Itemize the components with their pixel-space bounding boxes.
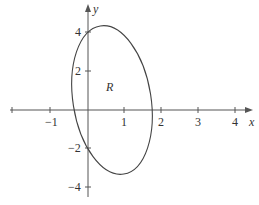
x-tick-label: 4 [232, 115, 238, 129]
x-axis-label: x [248, 115, 255, 129]
y-tick-label: 4 [75, 25, 81, 39]
y-tick-label: 2 [75, 64, 81, 78]
x-axis-arrow-icon [245, 107, 253, 113]
y-tick-label: −4 [68, 180, 81, 194]
x-tick-label: 1 [121, 115, 127, 129]
x-axis: −1 1 2 3 4 x [10, 107, 255, 129]
boundary-curve [62, 20, 163, 180]
y-axis-arrow-icon [85, 4, 91, 12]
x-tick-label: 3 [195, 115, 201, 129]
x-tick-label: −1 [45, 115, 58, 129]
diagram-canvas: −1 1 2 3 4 x 4 2 −2 −4 y R [0, 0, 259, 205]
y-axis-label: y [92, 2, 99, 16]
region-diagram: −1 1 2 3 4 x 4 2 −2 −4 y R [0, 0, 259, 205]
x-tick-label: 2 [158, 115, 164, 129]
region-label: R [105, 80, 114, 94]
y-tick-label: −2 [68, 141, 81, 155]
